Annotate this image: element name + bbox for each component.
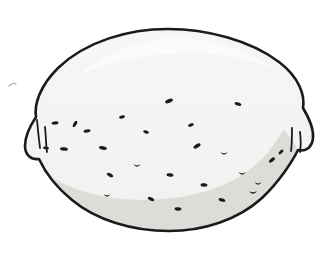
right-nub-tick-2 <box>300 132 301 152</box>
right-nub-tick-1 <box>291 128 292 151</box>
lemon-illustration: Lemon A simple hand-drawn illustration o… <box>0 0 335 259</box>
illustration-canvas: Lemon A simple hand-drawn illustration o… <box>0 0 335 259</box>
